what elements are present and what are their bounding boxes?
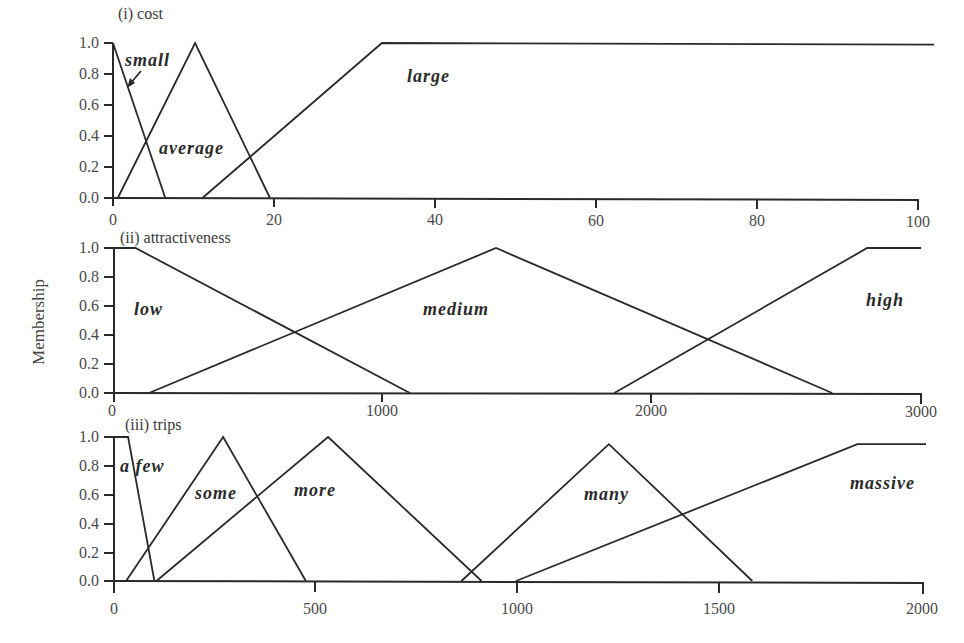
- set-label-average: average: [159, 138, 224, 158]
- membership-curve-large: [202, 43, 934, 198]
- x-axis-cost: 0 20 40 60 80 100: [109, 198, 930, 230]
- set-label-many: many: [584, 484, 629, 504]
- x-tick-label: 2000: [635, 402, 667, 419]
- y-tick-label: 0.2: [79, 355, 99, 372]
- x-tick-label: 0: [108, 402, 116, 419]
- x-tick-label: 3000: [905, 403, 937, 420]
- x-axis-attractiveness: 0 1000 2000 3000: [108, 393, 937, 420]
- panel-title-trips: (iii) trips: [125, 416, 181, 434]
- y-tick-label: 0.6: [79, 297, 99, 314]
- arrow-icon: [127, 71, 141, 88]
- y-tick-label: 0.4: [79, 127, 99, 144]
- membership-curve-many: [461, 444, 752, 581]
- set-label-massive: massive: [850, 473, 915, 493]
- x-tick-label: 40: [427, 211, 443, 228]
- set-label-some: some: [194, 483, 237, 503]
- membership-curve-low: [114, 248, 410, 393]
- x-tick-label: 2000: [906, 600, 938, 617]
- y-tick-label: 0.8: [79, 268, 99, 285]
- set-label-more: more: [294, 480, 336, 500]
- x-tick-label: 80: [749, 212, 765, 229]
- membership-function-figure: Membership (i) cost 1.0 0.8 0.6 0.4 0.2 …: [0, 0, 964, 643]
- x-axis-trips: 0 500 1000 1500 2000: [110, 581, 938, 617]
- membership-curve-medium: [149, 248, 832, 393]
- membership-curve-more: [156, 437, 481, 581]
- x-tick-label: 500: [303, 600, 327, 617]
- y-tick-label: 0.0: [79, 384, 99, 401]
- set-label-large: large: [407, 66, 450, 86]
- x-tick-label: 0: [110, 600, 118, 617]
- panel-title-cost: (i) cost: [118, 5, 163, 23]
- x-tick-label: 60: [588, 212, 604, 229]
- x-tick-label: 1000: [501, 600, 533, 617]
- panel-title-attractiveness: (ii) attractiveness: [120, 229, 231, 247]
- y-tick-label: 0.0: [79, 189, 99, 206]
- y-tick-label: 0.4: [79, 515, 99, 532]
- y-tick-label: 0.6: [79, 96, 99, 113]
- y-tick-label: 0.2: [79, 158, 99, 175]
- x-tick-label: 1000: [366, 402, 398, 419]
- y-tick-label: 0.8: [79, 65, 99, 82]
- x-tick-label: 1500: [703, 600, 735, 617]
- panel-trips: (iii) trips 1.0 0.8 0.6 0.4 0.2 0.0 0 50…: [79, 416, 938, 617]
- y-tick-label: 0.4: [79, 326, 99, 343]
- y-tick-label: 0.2: [79, 544, 99, 561]
- x-tick-label: 0: [109, 211, 117, 228]
- y-tick-label: 0.0: [79, 572, 99, 589]
- y-tick-label: 1.0: [79, 428, 99, 445]
- set-label-a-few: a few: [120, 456, 165, 476]
- membership-curve-massive: [516, 444, 926, 581]
- set-label-high: high: [866, 290, 904, 310]
- set-label-low: low: [134, 299, 163, 319]
- y-axis-attractiveness: 1.0 0.8 0.6 0.4 0.2 0.0: [79, 239, 114, 401]
- x-tick-label: 100: [906, 213, 930, 230]
- panel-cost: (i) cost 1.0 0.8 0.6 0.4 0.2 0.0 0 20: [79, 5, 934, 230]
- y-axis-cost: 1.0 0.8 0.6 0.4 0.2 0.0: [79, 34, 113, 206]
- y-tick-label: 0.6: [79, 486, 99, 503]
- y-tick-label: 1.0: [79, 239, 99, 256]
- y-axis-trips: 1.0 0.8 0.6 0.4 0.2 0.0: [79, 428, 114, 593]
- curves-attractiveness: [114, 248, 921, 393]
- y-axis-label: Membership: [29, 279, 48, 365]
- x-tick-label: 20: [266, 211, 282, 228]
- y-tick-label: 1.0: [79, 34, 99, 51]
- membership-curve-high: [614, 248, 921, 393]
- curves-trips: [114, 437, 926, 581]
- set-label-small: small: [124, 50, 170, 70]
- panel-attractiveness: (ii) attractiveness 1.0 0.8 0.6 0.4 0.2 …: [79, 229, 937, 420]
- y-tick-label: 0.8: [79, 457, 99, 474]
- curves-cost: [113, 43, 934, 198]
- set-label-medium: medium: [423, 299, 489, 319]
